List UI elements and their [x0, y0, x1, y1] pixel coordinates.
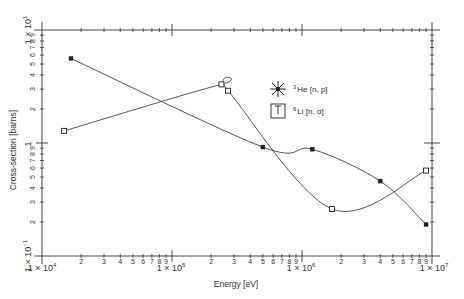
- axis-ticks: 2345678923456789234567892345678923456789: [29, 28, 434, 265]
- open-square-marker: [424, 168, 429, 173]
- x-label-1e7: 1 × 107: [420, 262, 449, 273]
- svg-text:3: 3: [362, 258, 366, 265]
- svg-text:4: 4: [29, 73, 36, 77]
- svg-text:7: 7: [29, 158, 36, 162]
- svg-text:7: 7: [410, 258, 414, 265]
- filled-square-marker: [378, 179, 382, 183]
- data-markers: [62, 56, 429, 226]
- svg-text:6: 6: [29, 53, 36, 57]
- svg-text:2: 2: [79, 258, 83, 265]
- x-axis-title: Energy [eV]: [214, 279, 258, 289]
- open-square-marker-icon: [271, 104, 285, 118]
- svg-text:4: 4: [378, 258, 382, 265]
- svg-text:3: 3: [29, 87, 36, 91]
- filled-square-marker: [424, 222, 428, 226]
- he-curve: [71, 58, 426, 224]
- svg-text:3: 3: [232, 258, 236, 265]
- legend-label-he: 3He [n, p]: [293, 84, 328, 94]
- x-label-1e5: 1 × 105: [157, 262, 186, 273]
- svg-text:5: 5: [261, 258, 265, 265]
- legend-item-li: 6Li [n, α]: [271, 104, 324, 118]
- svg-text:5: 5: [131, 258, 135, 265]
- y-label-1e0: 1: [23, 141, 33, 146]
- data-curves: [64, 58, 426, 224]
- x-decade-labels: 1 × 104 1 × 105 1 × 106 1 × 107: [28, 262, 449, 273]
- filled-square-marker: [261, 145, 265, 149]
- svg-text:2: 2: [29, 220, 36, 224]
- svg-text:2: 2: [339, 258, 343, 265]
- asterisk-marker-icon: [270, 81, 286, 97]
- x-label-1e6: 1 × 106: [287, 262, 316, 273]
- filled-square-marker: [310, 147, 314, 151]
- svg-text:8: 8: [29, 152, 36, 156]
- svg-text:2: 2: [29, 107, 36, 111]
- open-square-marker: [62, 128, 67, 133]
- y-label-1em1: 1 × 10−1: [22, 239, 33, 272]
- svg-text:4: 4: [29, 186, 36, 190]
- svg-text:7: 7: [29, 45, 36, 49]
- li-curve: [64, 77, 426, 211]
- svg-text:4: 4: [118, 258, 122, 265]
- svg-text:6: 6: [271, 258, 275, 265]
- cross-section-chart: 2345678923456789234567892345678923456789…: [0, 0, 464, 299]
- svg-text:6: 6: [141, 258, 145, 265]
- svg-text:5: 5: [391, 258, 395, 265]
- legend-label-li: 6Li [n, α]: [293, 106, 324, 116]
- svg-text:3: 3: [29, 200, 36, 204]
- svg-text:7: 7: [280, 258, 284, 265]
- filled-square-marker: [69, 56, 73, 60]
- svg-text:3: 3: [102, 258, 106, 265]
- y-label-1e1: 1 × 101: [22, 15, 33, 44]
- open-square-marker: [329, 207, 334, 212]
- legend: 3He [n, p] 6Li [n, α]: [270, 81, 328, 118]
- svg-text:5: 5: [29, 62, 36, 66]
- svg-text:6: 6: [29, 166, 36, 170]
- svg-text:6: 6: [401, 258, 405, 265]
- y-axis-title: Cross-section [barns]: [8, 110, 18, 190]
- svg-text:4: 4: [248, 258, 252, 265]
- legend-item-he: 3He [n, p]: [270, 81, 328, 97]
- svg-text:2: 2: [209, 258, 213, 265]
- svg-text:5: 5: [29, 175, 36, 179]
- svg-text:7: 7: [150, 258, 154, 265]
- open-square-marker: [226, 88, 231, 93]
- plot-frame: [34, 22, 440, 264]
- open-square-marker: [219, 82, 224, 87]
